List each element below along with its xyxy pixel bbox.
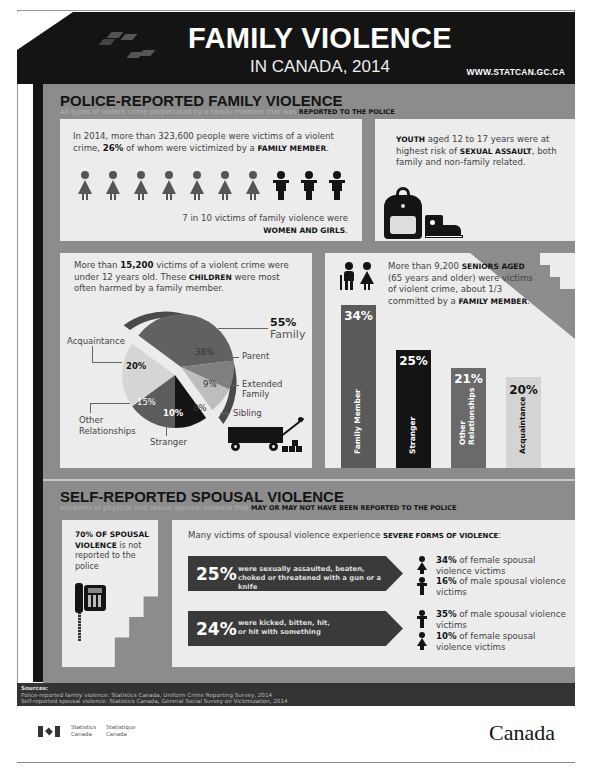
seniors-text: More than 9,200 SENIORS AGED (65 years a… [388, 261, 538, 307]
roof-shape [17, 12, 73, 50]
female-person-icon [243, 171, 263, 201]
pie-value-stranger: 10% [163, 408, 183, 418]
header-banner: FAMILY VIOLENCE IN CANADA, 2014 WWW.STAT… [17, 12, 575, 84]
section-title-spousal: SELF-REPORTED SPOUSAL VIOLENCE [60, 488, 344, 505]
severe-forms-bold: SEVERE FORMS OF VIOLENCE [383, 532, 498, 540]
pie-value-parent: 38% [195, 347, 214, 357]
decor-pixel-icon [98, 39, 115, 45]
male-person-icon [299, 171, 319, 201]
senior-woman-icon [360, 262, 374, 290]
bar-value: 21% [451, 372, 486, 386]
text: More than [74, 260, 120, 270]
decor-pixel-icon [106, 32, 123, 38]
leader-line [90, 403, 130, 404]
arrow-desc: were sexually assaulted, beaten, choked … [238, 565, 393, 592]
family-member-bold: FAMILY MEMBER [258, 144, 327, 153]
female-person-icon [75, 171, 95, 201]
pie-label-other: Other Relationships [79, 415, 139, 437]
pie-label-stranger: Stranger [150, 437, 187, 447]
statcan-en-label: Statistics Canada [71, 724, 101, 737]
subtitle-text: All types of violent crime perpetrated b… [60, 108, 299, 116]
male-person-icon [271, 171, 291, 201]
pie-value-sibling: 8% [193, 403, 207, 413]
pie-label-extended: Extended Family [242, 379, 297, 399]
text: . [326, 143, 329, 153]
house-wall [33, 82, 43, 682]
subtitle-bold: MAY OR MAY NOT HAVE BEEN REPORTED TO THE… [251, 504, 456, 512]
severe-form-arrow-1: 25% were sexually assaulted, beaten, cho… [188, 556, 403, 591]
leader-line [92, 346, 93, 362]
youth-text: YOUTH aged 12 to 17 years were at highes… [396, 134, 566, 169]
statcan-url-link[interactable]: WWW.STATCAN.GC.CA [467, 67, 565, 77]
pie-family-label: Family [270, 328, 305, 341]
decor-pixel-icon [120, 34, 137, 40]
leader-line [230, 385, 239, 386]
victims-text: In 2014, more than 323,600 people were v… [73, 131, 348, 154]
arrow-desc: were kicked, bitten, hit, or hit with so… [238, 619, 338, 637]
pie-value-extended: 9% [203, 379, 217, 389]
bar-value: 34% [341, 309, 376, 323]
text: More than 9,200 [388, 261, 462, 271]
breakdown-pct: 10% [436, 631, 457, 641]
breakdown-pct: 35% [436, 609, 457, 619]
pct-bold: 26% [103, 143, 124, 153]
breakdown-1-female: 34% of female spousal violence victims [436, 555, 566, 576]
female-icon [417, 632, 427, 650]
bar-label: Acquaintance [519, 396, 528, 453]
bar-value: 25% [396, 354, 431, 368]
female-person-icon [159, 171, 179, 201]
family-member-bold: FAMILY MEMBER [459, 297, 528, 306]
bar-acquaintance: 20% Acquaintance [506, 377, 541, 468]
female-icon [417, 556, 427, 574]
source-line: Police-reported family violence: Statist… [21, 692, 272, 698]
bar-family-member: 34% Family Member [341, 305, 376, 468]
male-icon [417, 610, 427, 628]
leader-line [220, 413, 230, 414]
male-person-icon [327, 171, 347, 201]
statcan-fr-label: Statistique Canada [106, 724, 140, 737]
breakdown-pct: 16% [436, 576, 457, 586]
bar-label: Stranger [409, 416, 418, 453]
page-subtitle: IN CANADA, 2014 [185, 57, 455, 77]
subtitle-text: Incidents of physical and sexual spousal… [60, 504, 251, 512]
text: . [527, 296, 530, 306]
breakdown-2-female: 10% of female spousal violence victims [436, 631, 566, 652]
sources-label: Sources: [21, 685, 48, 691]
women-girls-text: 7 in 10 victims of family violence were … [180, 213, 348, 236]
breakdown-2-male: 35% of male spousal violence victims [436, 609, 566, 630]
children-bold: CHILDREN [189, 273, 232, 282]
text: : [498, 530, 501, 540]
bar-label: Other Relationships [459, 395, 476, 445]
not-reported-text: 70% OF SPOUSAL VIOLENCE is not reported … [75, 530, 155, 572]
sources-bar: Sources: Police-reported family violence… [17, 683, 575, 706]
female-person-icon [215, 171, 235, 201]
source-line: Self-reported spousal violence: Statisti… [21, 698, 288, 704]
senior-man-icon [342, 262, 356, 290]
severe-forms-intro: Many victims of spousal violence experie… [188, 530, 568, 543]
people-pictogram [75, 171, 347, 201]
page-title: FAMILY VIOLENCE [185, 22, 455, 55]
text: 7 in 10 victims of family violence were [182, 213, 348, 223]
footer: Statistics Canada Statistique Canada Can… [17, 706, 575, 763]
children-count-bold: 15,200 [120, 260, 153, 270]
leader-line [218, 328, 268, 329]
backpack-icon [384, 187, 422, 239]
bar-value: 20% [506, 383, 541, 397]
canada-wordmark: Canada [489, 720, 555, 746]
section-subtitle-spousal: Incidents of physical and sexual spousal… [60, 504, 456, 512]
seniors-bold: SENIORS AGED [462, 262, 525, 271]
pie-value-acquaintance: 20% [126, 361, 146, 371]
pie-label-acquaintance: Acquaintance [67, 336, 125, 346]
female-person-icon [131, 171, 151, 201]
section-divider [43, 479, 575, 481]
arrow-pct: 24% [196, 619, 237, 639]
severe-form-arrow-2: 24% were kicked, bitten, hit, or hit wit… [188, 611, 403, 646]
wagon-icon [225, 415, 305, 455]
male-icon [417, 577, 427, 595]
breakdown-pct: 34% [436, 555, 457, 565]
pie-label-parent: Parent [242, 351, 269, 361]
leader-line [166, 423, 167, 436]
section-subtitle-police: All types of violent crime perpetrated b… [60, 108, 395, 116]
arrow-pct: 25% [196, 564, 237, 584]
women-girls-bold: WOMEN AND GIRLS [263, 226, 345, 235]
